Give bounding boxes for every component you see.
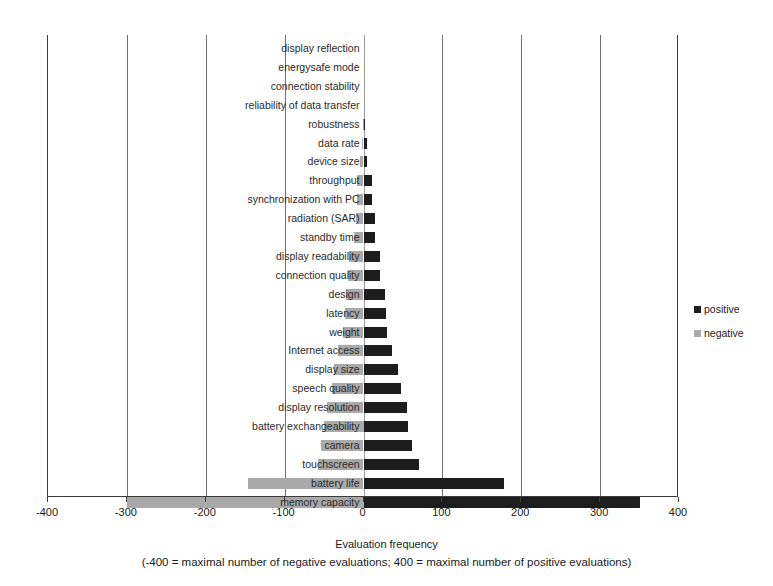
bar-positive (364, 138, 367, 149)
chart-row: robustness (48, 115, 677, 134)
chart-row: display resolution (48, 398, 677, 417)
chart-row: data rate (48, 134, 677, 153)
x-axis-subtitle: (-400 = maximal number of negative evalu… (0, 556, 773, 568)
x-tick-mark (284, 497, 285, 502)
bar-positive (364, 440, 413, 451)
category-label: energysafe mode (278, 60, 361, 75)
bar-chart: display reflectionenergysafe modeconnect… (0, 0, 773, 586)
bar-positive (364, 383, 402, 394)
category-label: camera (324, 438, 361, 453)
chart-row: Internet access (48, 341, 677, 360)
x-tick-label: 100 (432, 506, 450, 518)
x-axis-title: Evaluation frequency (0, 538, 773, 550)
legend-item: negative (694, 327, 744, 339)
chart-row: reliability of data transfer (48, 96, 677, 115)
legend-label: negative (704, 327, 744, 339)
category-label: reliability of data transfer (245, 98, 361, 113)
category-label: radiation (SAR) (288, 211, 362, 226)
x-tick-mark (363, 497, 364, 502)
chart-row: camera (48, 436, 677, 455)
bar-positive (364, 478, 504, 489)
bar-positive (364, 459, 419, 470)
category-label: connection stability (271, 79, 362, 94)
chart-row: throughput (48, 171, 677, 190)
chart-row: display size (48, 360, 677, 379)
bar-positive (364, 270, 381, 281)
category-label: speech quality (292, 381, 361, 396)
x-tick-mark (678, 497, 679, 502)
x-tick-label: 200 (511, 506, 529, 518)
x-tick-mark (126, 497, 127, 502)
bar-positive (364, 308, 386, 319)
category-label: device size (308, 154, 362, 169)
legend-swatch-icon (694, 330, 701, 337)
x-tick-label: -100 (273, 506, 295, 518)
bar-positive (364, 402, 407, 413)
bar-positive (364, 251, 381, 262)
category-label: standby time (300, 230, 362, 245)
chart-row: speech quality (48, 379, 677, 398)
x-tick-label: -300 (115, 506, 137, 518)
bar-positive (364, 364, 399, 375)
category-label: battery exchangeability (252, 419, 361, 434)
x-tick-mark (205, 497, 206, 502)
bar-positive (364, 213, 376, 224)
bar-positive (364, 156, 368, 167)
chart-row: connection stability (48, 77, 677, 96)
chart-legend: positivenegative (694, 303, 744, 351)
legend-label: positive (704, 303, 740, 315)
chart-row: touchscreen (48, 455, 677, 474)
category-label: touchscreen (302, 457, 361, 472)
category-label: display readability (276, 249, 361, 264)
chart-row: display readability (48, 247, 677, 266)
bar-positive (364, 175, 373, 186)
category-label: display resolution (278, 400, 361, 415)
x-tick-label: 300 (590, 506, 608, 518)
chart-row: battery exchangeability (48, 417, 677, 436)
chart-row: energysafe mode (48, 58, 677, 77)
legend-swatch-icon (694, 306, 701, 313)
chart-row: device size (48, 152, 677, 171)
bar-positive (364, 232, 376, 243)
chart-row: connection quality (48, 266, 677, 285)
x-tick-mark (599, 497, 600, 502)
category-label: Internet access (288, 343, 361, 358)
bar-positive (364, 119, 366, 130)
chart-row: display reflection (48, 39, 677, 58)
x-tick-mark (441, 497, 442, 502)
chart-row: latency (48, 304, 677, 323)
chart-row: radiation (SAR) (48, 209, 677, 228)
legend-item: positive (694, 303, 744, 315)
category-label: battery life (311, 476, 361, 491)
category-label: weight (329, 325, 361, 340)
x-tick-mark (47, 497, 48, 502)
chart-row: synchronization with PC (48, 190, 677, 209)
x-tick-label: 0 (359, 506, 365, 518)
chart-row: standby time (48, 228, 677, 247)
category-label: display reflection (281, 41, 361, 56)
bar-positive (364, 327, 388, 338)
bar-positive (364, 345, 392, 356)
chart-row: weight (48, 323, 677, 342)
category-label: robustness (308, 117, 361, 132)
category-label: latency (326, 306, 361, 321)
x-tick-label: 400 (669, 506, 687, 518)
category-label: design (329, 287, 362, 302)
x-tick-mark (520, 497, 521, 502)
category-label: data rate (318, 136, 361, 151)
category-label: throughput (309, 173, 361, 188)
x-tick-label: -400 (36, 506, 58, 518)
plot-area: display reflectionenergysafe modeconnect… (47, 35, 678, 497)
category-label: connection quality (275, 268, 361, 283)
x-tick-label: -200 (194, 506, 216, 518)
category-label: display size (305, 362, 361, 377)
chart-row: design (48, 285, 677, 304)
bar-positive (364, 194, 373, 205)
bar-positive (364, 289, 385, 300)
chart-row: battery life (48, 474, 677, 493)
category-label: synchronization with PC (247, 192, 361, 207)
bar-positive (364, 421, 409, 432)
